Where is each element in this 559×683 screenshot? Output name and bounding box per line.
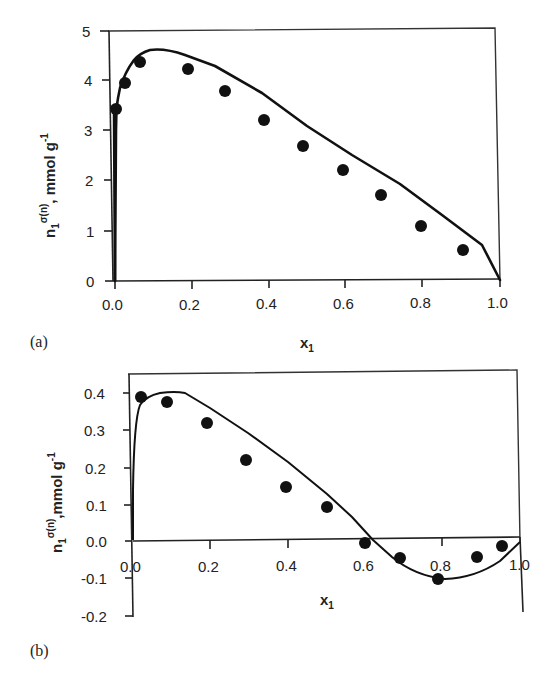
- x-tick-label: 0.8: [410, 294, 431, 311]
- chart-a-x-axis-title: x1: [300, 334, 314, 354]
- data-point: [134, 56, 146, 68]
- y-tick-label: 4: [84, 72, 92, 89]
- chart-a-frame: [108, 28, 500, 281]
- panel-label-b: (b): [30, 642, 49, 660]
- chart-a-y-axis-title: n1σ(n), mmol g-1: [38, 133, 61, 238]
- data-point: [359, 537, 371, 549]
- x-tick-label: 1.0: [509, 556, 530, 573]
- x-tick-label: 0.6: [353, 557, 374, 574]
- data-point: [201, 417, 213, 429]
- chart-a-x-axis: [113, 279, 500, 281]
- y-tick-label: 0.1: [86, 497, 107, 514]
- x-tick-label: 0.2: [198, 558, 219, 575]
- chart-a-x-tick-labels: 0.0 0.2 0.4 0.6 0.8 1.0: [102, 294, 508, 313]
- chart-b-y-tick-labels: 0.4 0.3 0.2 0.1 0.0 -0.1 -0.2: [81, 385, 107, 625]
- x-tick-label: 0.0: [102, 296, 123, 313]
- chart-b-right-extension: [520, 537, 523, 612]
- y-tick-label: 0.0: [86, 533, 107, 550]
- data-point: [110, 103, 122, 115]
- data-point: [321, 501, 333, 513]
- data-point: [258, 114, 270, 126]
- chart-a-data-points: [110, 56, 469, 256]
- chart-b: 0.4 0.3 0.2 0.1 0.0 -0.1 -0.2 0.0 0.2 0.…: [30, 370, 530, 660]
- chart-b-x-axis-title: x1: [320, 591, 334, 611]
- y-tick-label: -0.1: [81, 570, 107, 587]
- panel-label-a: (a): [30, 333, 48, 351]
- y-tick-label: 3: [84, 122, 92, 139]
- data-point: [415, 220, 427, 232]
- chart-a-y-axis: [109, 31, 113, 281]
- data-point: [219, 85, 231, 97]
- chart-b-data-points: [135, 391, 508, 585]
- y-tick-label: 5: [82, 23, 90, 40]
- data-point: [394, 552, 406, 564]
- y-tick-label: 1: [86, 223, 94, 240]
- x-tick-label: 0.8: [430, 557, 451, 574]
- data-point: [432, 573, 444, 585]
- chart-b-x-tick-labels: 0.0 0.2 0.4 0.6 0.8 1.0: [120, 556, 530, 575]
- chart-a-y-tick-labels: 5 4 3 2 1 0: [82, 23, 94, 290]
- chart-a-fit-curve-spike: [114, 108, 115, 281]
- x-tick-label: 0.4: [276, 557, 297, 574]
- data-point: [375, 189, 387, 201]
- y-tick-label: 0.3: [84, 422, 105, 439]
- data-point: [240, 454, 252, 466]
- x-tick-label: 1.0: [487, 294, 508, 311]
- data-point: [182, 63, 194, 75]
- data-point: [337, 164, 349, 176]
- x-tick-label: 0.4: [256, 295, 277, 312]
- figure-canvas: 5 4 3 2 1 0 0.0 0.2 0.4 0.6 0.8 1.0 x1 n…: [0, 0, 559, 683]
- y-tick-label: 0.4: [84, 385, 105, 402]
- chart-a-fit-curve: [115, 50, 500, 281]
- x-tick-label: 0.6: [333, 295, 354, 312]
- chart-b-fit-curve: [133, 392, 520, 579]
- data-point: [280, 481, 292, 493]
- x-tick-label: 0.0: [120, 558, 141, 575]
- data-point: [119, 77, 131, 89]
- data-point: [496, 540, 508, 552]
- data-point: [161, 396, 173, 408]
- data-point: [135, 391, 147, 403]
- y-tick-label: -0.2: [81, 608, 107, 625]
- chart-a: 5 4 3 2 1 0 0.0 0.2 0.4 0.6 0.8 1.0 x1 n…: [30, 23, 508, 354]
- chart-b-frame: [128, 370, 520, 542]
- data-point: [297, 140, 309, 152]
- data-point: [457, 244, 469, 256]
- x-tick-label: 0.2: [179, 296, 200, 313]
- y-tick-label: 0: [86, 273, 94, 290]
- chart-b-y-axis-title: n1σ(n),mmol g-1: [45, 452, 68, 553]
- y-tick-label: 0.2: [85, 460, 106, 477]
- chart-b-x-axis: [133, 537, 520, 541]
- data-point: [471, 551, 483, 563]
- y-tick-label: 2: [85, 172, 93, 189]
